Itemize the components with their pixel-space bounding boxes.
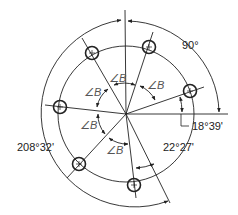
angle-18-39-label: 18°39' — [192, 121, 223, 132]
diagram-drawing — [0, 0, 238, 215]
angle-208-32-label: 208°32' — [17, 142, 54, 153]
vertical-reference-line — [125, 10, 126, 114]
angle-22-27-label: 22°27' — [163, 142, 194, 153]
spacing-label-1: ∠B — [109, 73, 126, 84]
angle-90-label: 90° — [182, 40, 199, 51]
spacing-label-5: ∠B — [106, 145, 123, 156]
bolt-circle-diagram: 90° 18°39' 208°32' 22°27' ∠B ∠B ∠B ∠B ∠B — [0, 0, 238, 215]
spacing-label-2: ∠B — [147, 80, 164, 91]
spacing-label-3: ∠B — [84, 87, 101, 98]
spacing-label-4: ∠B — [80, 120, 97, 131]
